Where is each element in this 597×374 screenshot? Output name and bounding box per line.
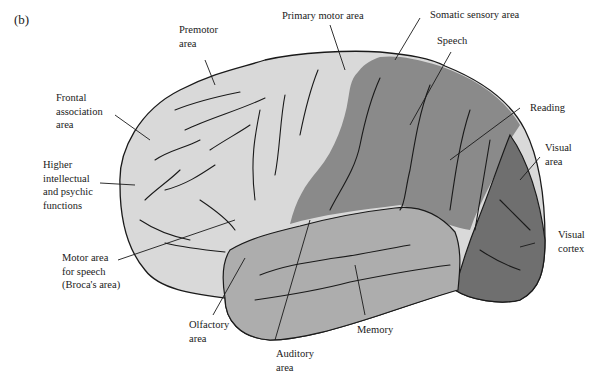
label-olfactory-area: Olfactory area (189, 318, 229, 345)
label-primary-motor-area: Primary motor area (282, 9, 364, 23)
label-visual-cortex: Visual cortex (558, 228, 585, 255)
label-higher-intellectual-functions: Higher intellectual and psychic function… (43, 158, 93, 212)
label-brocas-area: Motor area for speech (Broca's area) (62, 251, 120, 292)
brain-functional-areas-diagram: (b) Premotor area Primary motor area Som… (0, 0, 597, 374)
label-memory: Memory (357, 323, 393, 337)
label-auditory-area: Auditory area (276, 347, 314, 374)
label-visual-area: Visual area (545, 141, 572, 168)
label-somatic-sensory-area: Somatic sensory area (430, 8, 519, 22)
label-frontal-association-area: Frontal association area (56, 91, 103, 132)
panel-label: (b) (14, 12, 29, 28)
label-premotor-area: Premotor area (179, 23, 218, 50)
label-reading: Reading (530, 101, 565, 115)
label-speech: Speech (437, 34, 467, 48)
